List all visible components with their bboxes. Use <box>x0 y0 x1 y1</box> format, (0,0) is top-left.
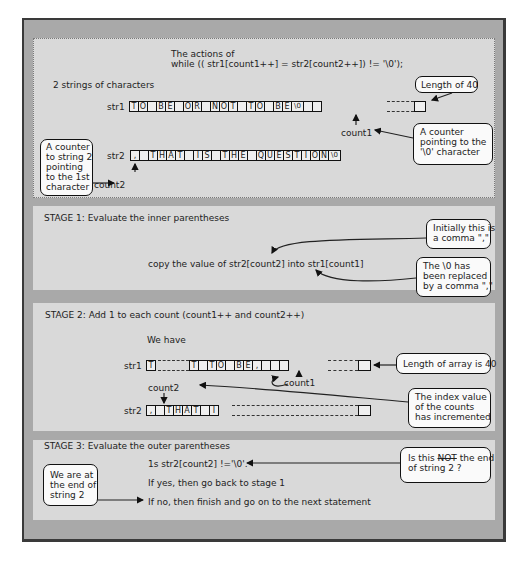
callout-not-pre: Is this <box>408 453 438 463</box>
callout-counter2: A counter to string 2 pointing to the 1s… <box>40 139 93 196</box>
stage2-str2-array: , THAT I <box>146 405 218 416</box>
callout-array-length: Length of array is 40 <box>396 353 491 374</box>
stage2-str2-label: str2 <box>124 406 142 416</box>
callout-counter1-line: '\0' character <box>420 147 486 157</box>
callout-counter2-line: character <box>46 182 87 192</box>
count1-label: count1 <box>341 128 372 138</box>
callout-replaced-line: by a comma "," <box>423 281 484 291</box>
str2-array: , THAT IS THE QUESTION\0 <box>130 150 340 161</box>
stage3-line2: If yes, then go back to stage 1 <box>148 478 285 488</box>
count2-label: count2 <box>94 180 125 190</box>
stage2-str2-last-cell <box>358 405 371 416</box>
callout-initial-comma: Initially this is a comma "," <box>426 219 491 249</box>
callout-replaced-line: The \0 has <box>423 261 484 271</box>
array-cell: I <box>209 405 219 416</box>
callout-index-line: has incremented <box>415 412 484 422</box>
callout-index-incremented: The index value of the counts has increm… <box>408 388 491 428</box>
str1-dashed-gap <box>387 101 414 112</box>
str1-last-cell <box>414 101 426 112</box>
str2-label: str2 <box>107 151 125 161</box>
stage3-title: STAGE 3: Evaluate the outer parentheses <box>44 441 230 451</box>
callout-end-line: the end of <box>50 480 91 490</box>
callout-replaced: The \0 has been replaced by a comma "," <box>416 257 491 297</box>
array-cell <box>279 360 289 371</box>
stage2-count1-label: count1 <box>284 378 315 388</box>
stage2-str1-gap2 <box>328 360 358 371</box>
callout-end-line: We are at <box>50 470 91 480</box>
stage3-line1: 1s str2[count2] !='\0'. <box>148 459 248 469</box>
stage2-str1-first-cell: T <box>146 360 155 371</box>
stage2-str2-gap <box>232 405 358 416</box>
array-cell <box>312 101 322 112</box>
stage2-count2-label: count2 <box>148 383 179 393</box>
callout-index-line: of the counts <box>415 402 484 412</box>
stage1-statement: copy the value of str2[count2] into str1… <box>148 259 364 269</box>
callout-length-40: Length of 40 <box>415 76 478 93</box>
stage2-we-have: We have <box>147 335 186 345</box>
strings-title: 2 strings of characters <box>53 80 154 90</box>
str1-label: str1 <box>107 102 125 112</box>
callout-not-post: the end <box>457 453 494 463</box>
str1-array: TO BE OR NOT TO BE\0 <box>129 101 321 112</box>
callout-counter1: A counter pointing to the '\0' character <box>413 123 493 165</box>
callout-counter1-line: A counter <box>420 127 486 137</box>
callout-array-length-text: Length of array is 40 <box>403 359 496 369</box>
callout-index-line: The index value <box>415 392 484 402</box>
callout-length-text: Length of 40 <box>421 80 478 90</box>
stage1-title: STAGE 1: Evaluate the inner parentheses <box>44 213 229 223</box>
header-line2: while (( str1[count1++] = str2[count2++]… <box>171 59 403 69</box>
callout-not-line2: of string 2 ? <box>408 463 483 473</box>
stage2-str1-label: str1 <box>124 361 142 371</box>
stage2-str1-array: T TO BE, <box>189 360 288 371</box>
callout-initial-line: a comma "," <box>433 233 484 243</box>
callout-end-line: string 2 <box>50 490 91 500</box>
callout-not-word: NOT <box>438 453 457 463</box>
callout-replaced-line: been replaced <box>423 271 484 281</box>
callout-initial-line: Initially this is <box>433 223 484 233</box>
callout-counter1-line: pointing to the <box>420 137 486 147</box>
array-cell: T <box>146 360 156 371</box>
callout-counter2-line: A counter <box>46 142 87 152</box>
callout-counter2-line: to string 2 <box>46 152 87 162</box>
callout-not-line1: Is this NOT the end <box>408 453 483 463</box>
header-line1: The actions of <box>171 49 235 59</box>
callout-counter2-line: to the 1st <box>46 172 87 182</box>
callout-counter2-line: pointing <box>46 162 87 172</box>
callout-end-of-string2: We are at the end of string 2 <box>43 464 98 506</box>
stage2-str1-gap1 <box>158 360 189 371</box>
array-cell: \0 <box>328 150 341 161</box>
stage3-line3: If no, then finish and go on to the next… <box>148 497 371 507</box>
stage2-title: STAGE 2: Add 1 to each count (count1++ a… <box>45 310 304 320</box>
stage2-str1-last-cell <box>358 360 371 371</box>
callout-not-end: Is this NOT the end of string 2 ? <box>400 447 491 483</box>
